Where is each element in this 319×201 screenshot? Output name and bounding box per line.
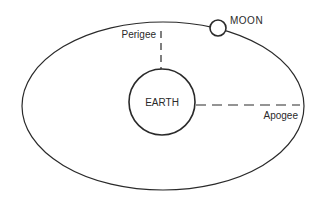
apogee-label: Apogee (264, 110, 299, 121)
orbit-diagram-svg: EARTH Perigee Apogee MOON (0, 0, 319, 201)
orbit-diagram: EARTH Perigee Apogee MOON (0, 0, 319, 201)
earth-label: EARTH (145, 97, 179, 108)
moon-label: MOON (230, 15, 263, 26)
moon-circle (210, 20, 226, 36)
perigee-label: Perigee (122, 29, 157, 40)
